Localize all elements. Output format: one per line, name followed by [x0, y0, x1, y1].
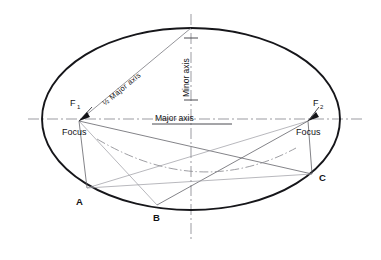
ellipse-figure: F 1 Focus F 2 Focus Major axis Minor axi… [0, 0, 381, 260]
chord-a-to-c [87, 174, 312, 188]
label-half-major-axis: ½ Major axis [101, 70, 143, 107]
label-f2: F [313, 98, 319, 108]
line-f2-to-a [87, 121, 308, 188]
label-f1: F [70, 98, 76, 108]
line-f2-to-b [157, 121, 308, 205]
label-minor-axis: Minor axis [181, 58, 191, 97]
label-focus-left: Focus [62, 127, 87, 137]
label-point-b: B [153, 212, 160, 223]
label-point-c: C [319, 172, 326, 183]
line-f1-to-c [79, 121, 312, 174]
label-major-axis: Major axis [155, 113, 194, 123]
label-f1-subscript: 1 [77, 104, 81, 110]
label-point-a: A [76, 196, 83, 207]
label-focus-right: Focus [296, 127, 321, 137]
ellipse-diagram-canvas: F 1 Focus F 2 Focus Major axis Minor axi… [0, 0, 381, 260]
label-f2-subscript: 2 [320, 104, 324, 110]
line-f1-to-b [79, 121, 157, 205]
